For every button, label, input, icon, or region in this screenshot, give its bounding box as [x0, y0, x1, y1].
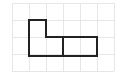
grid-diagram: [0, 0, 122, 76]
